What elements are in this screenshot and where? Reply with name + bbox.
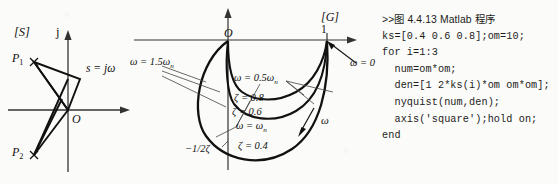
g-plane-label: [G] (321, 10, 339, 25)
code-line: ks=[0.4 0.6 0.8];om=10; (382, 29, 558, 46)
omega-wn-text: ω = ω (236, 120, 263, 131)
nyquist-origin-label: O (224, 26, 233, 41)
omega-0-5-wn-text: ω = 0.5ω (234, 72, 274, 83)
omega-0-5-wn-label: ω = 0.5ωn (234, 72, 278, 86)
s-plane-vectors (34, 62, 80, 155)
omega-1-5-wn-subscript: n (170, 62, 174, 70)
omega-zero-label: ω = 0 (350, 57, 375, 68)
omega-direction-label: ω (321, 114, 329, 126)
s-plane-diagram: [S] j P1 P2 s = jω O (0, 0, 140, 184)
zeta-0-4-label: ζ = 0.4 (238, 140, 268, 151)
code-line-list: >>图 4.4.13 Matlab 程序 ks=[0.4 0.6 0.8];om… (382, 12, 558, 145)
s-equals-jomega-label: s = jω (86, 62, 115, 74)
figure-page: [S] j P1 P2 s = jω O (0, 0, 558, 184)
omega-1-5-wn-text: ω = 1.5ω (130, 56, 170, 67)
code-line: >>图 4.4.13 Matlab 程序 (382, 12, 558, 29)
code-line: nyquist(num,den); (382, 95, 558, 112)
leader-lines-omega-1-5 (162, 66, 226, 107)
pole-p2-label: P2 (12, 145, 23, 161)
omega-1-5-wn-label: ω = 1.5ωn (130, 56, 174, 70)
omega-0-5-wn-subscript: n (274, 78, 278, 86)
pole-p2-subscript: 2 (19, 152, 23, 161)
zeta-0-8-label: ζ = 0.8 (234, 92, 264, 103)
code-line: for i=1:3 (382, 45, 558, 62)
s-plane-imaginary-axis-arrow (64, 30, 71, 40)
pole-p1-subscript: 1 (19, 58, 23, 67)
s-plane-imaginary-axis-label: j (56, 25, 59, 40)
code-line: end (382, 128, 558, 145)
code-line: den=[1 2*ks(i)*om om*om]; (382, 78, 558, 95)
code-line: axis('square');hold on; (382, 112, 558, 129)
nyquist-imaginary-axis-arrow (224, 8, 231, 18)
omega-wn-subscript: n (263, 126, 267, 134)
peak-magnitude-label: −1/2ζ (185, 143, 210, 154)
pole-p1-label: P1 (12, 51, 23, 67)
nyquist-diagram: O 1 [G] ω = 0 ω ω = 1.5ωn ω = 0.5ωn ω = … (128, 0, 373, 184)
pole-marker-p1-icon (30, 58, 38, 66)
nyquist-curve-zeta-0-8 (228, 41, 327, 100)
s-plane-origin-label: O (72, 112, 81, 127)
pole-marker-p2-icon (30, 151, 38, 159)
matlab-code-listing: >>图 4.4.13 Matlab 程序 ks=[0.4 0.6 0.8];om… (382, 12, 558, 182)
s-plane-label: [S] (14, 25, 30, 40)
omega-wn-label: ω = ωn (236, 120, 267, 134)
code-line: num=om*om; (382, 62, 558, 79)
nyquist-real-axis-arrow (347, 36, 357, 43)
zeta-0-6-label: ζ = 0.6 (232, 106, 262, 117)
leader-line-peak (222, 141, 228, 147)
